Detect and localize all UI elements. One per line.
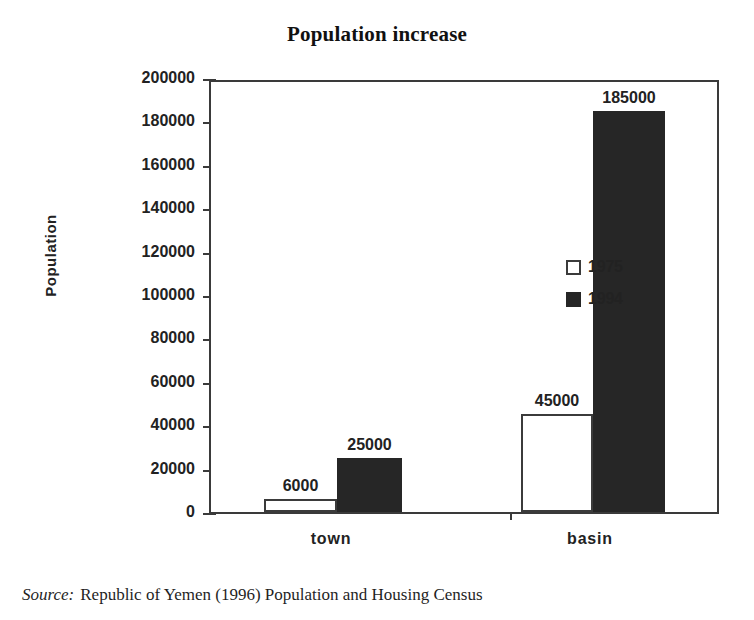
bar-basin-1975 bbox=[521, 414, 593, 512]
source-label: Source: bbox=[22, 585, 74, 604]
bar-town-1994 bbox=[337, 458, 402, 512]
legend-label: 1975 bbox=[588, 258, 623, 276]
legend-label: 1994 bbox=[588, 290, 623, 308]
legend-swatch-icon bbox=[566, 260, 581, 275]
x-axis-category-label-basin: basin bbox=[520, 530, 660, 548]
x-axis-category-label-town: town bbox=[261, 530, 401, 548]
y-axis-tick-label: 60000 bbox=[95, 373, 195, 391]
bar-chart-figure: Population 20000018000016000014000012000… bbox=[0, 0, 754, 575]
y-axis-tick-label: 20000 bbox=[95, 460, 195, 478]
x-axis-category-divider bbox=[510, 512, 512, 520]
bar-town-1975 bbox=[264, 499, 337, 512]
y-axis-tick-label: 0 bbox=[95, 503, 195, 521]
source-text: Republic of Yemen (1996) Population and … bbox=[80, 585, 482, 604]
chart-legend: 19751994 bbox=[566, 254, 623, 318]
y-axis-tick-label: 140000 bbox=[95, 199, 195, 217]
y-axis-title: Population bbox=[42, 176, 59, 336]
y-axis-tick-label: 160000 bbox=[95, 156, 195, 174]
bar-value-label: 185000 bbox=[571, 89, 687, 107]
y-axis-tick-label: 200000 bbox=[95, 69, 195, 87]
legend-item-1975[interactable]: 1975 bbox=[566, 254, 623, 280]
y-axis-tick-label: 180000 bbox=[95, 112, 195, 130]
plot-area: 60002500045000185000 19751994 bbox=[209, 80, 719, 514]
y-axis-tick-label: 120000 bbox=[95, 243, 195, 261]
bar-value-label: 25000 bbox=[315, 436, 424, 454]
y-axis-tick-label: 80000 bbox=[95, 329, 195, 347]
legend-item-1994[interactable]: 1994 bbox=[566, 286, 623, 312]
y-axis-tick-label: 100000 bbox=[95, 286, 195, 304]
legend-swatch-icon bbox=[566, 292, 581, 307]
source-caption: Source:Republic of Yemen (1996) Populati… bbox=[22, 585, 483, 605]
y-axis-tick-label: 40000 bbox=[95, 416, 195, 434]
